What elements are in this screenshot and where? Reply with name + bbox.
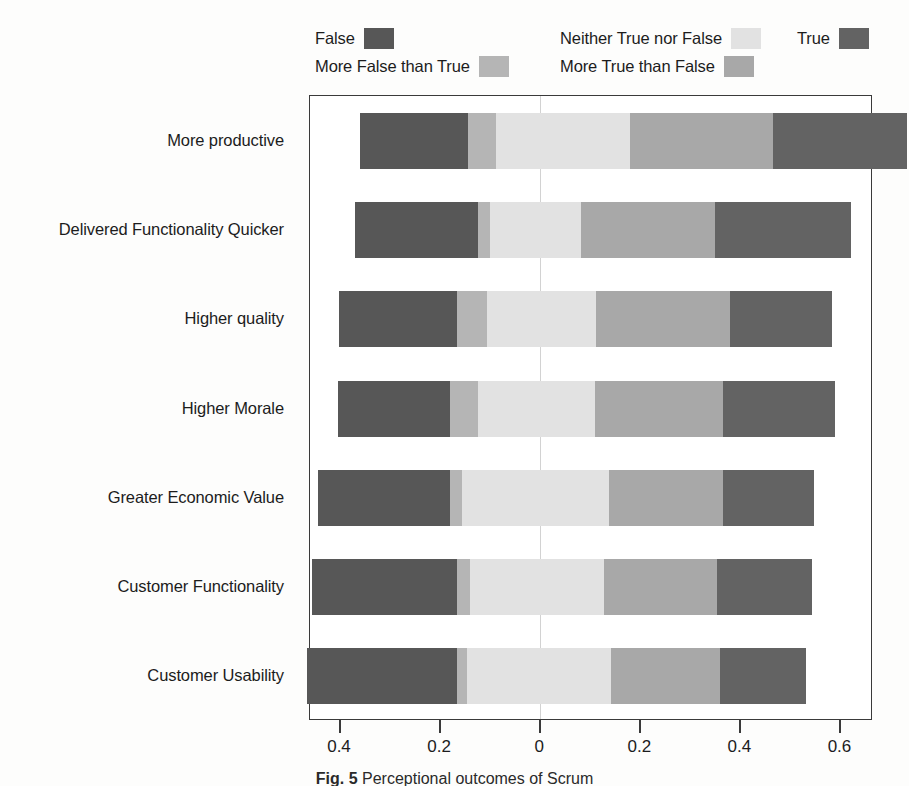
legend-swatch: [364, 28, 394, 49]
bar-segment[interactable]: [338, 381, 450, 437]
bar-segment[interactable]: [720, 648, 806, 704]
bar-row: [310, 291, 871, 347]
bar-segment[interactable]: [490, 202, 581, 258]
legend-item[interactable]: More False than True: [315, 56, 509, 77]
stacked-bar[interactable]: [339, 291, 832, 347]
bar-segment[interactable]: [339, 291, 457, 347]
bar-segment[interactable]: [630, 113, 773, 169]
bar-segment[interactable]: [611, 648, 720, 704]
chart-legend: FalseMore False than TrueNeither True no…: [309, 26, 887, 84]
bar-segment[interactable]: [595, 381, 723, 437]
legend-item[interactable]: True: [797, 28, 869, 49]
legend-item[interactable]: More True than False: [560, 56, 754, 77]
legend-swatch: [479, 56, 509, 77]
bar-segment[interactable]: [596, 291, 730, 347]
legend-item-label: More True than False: [560, 57, 715, 76]
stacked-bar[interactable]: [355, 202, 852, 258]
stacked-bar[interactable]: [338, 381, 835, 437]
x-axis-tick-label: 0.2: [427, 737, 451, 757]
x-axis-tick: [539, 720, 541, 733]
bar-segment[interactable]: [450, 470, 462, 526]
bar-segment[interactable]: [496, 113, 631, 169]
legend-swatch: [839, 28, 869, 49]
bar-row: [310, 202, 871, 258]
bar-segment[interactable]: [467, 648, 612, 704]
legend-swatch: [724, 56, 754, 77]
bar-segment[interactable]: [478, 381, 595, 437]
x-axis-tick-label: 0.6: [828, 737, 852, 757]
bar-segment[interactable]: [478, 202, 490, 258]
bar-segment[interactable]: [604, 559, 718, 615]
bar-segment[interactable]: [730, 291, 832, 347]
bar-row: [310, 648, 871, 704]
bar-row: [310, 559, 871, 615]
bar-segment[interactable]: [581, 202, 715, 258]
legend-swatch: [731, 28, 761, 49]
stacked-bar[interactable]: [307, 648, 806, 704]
bar-segment[interactable]: [457, 648, 467, 704]
legend-item-label: More False than True: [315, 57, 470, 76]
x-axis-tick: [339, 720, 341, 733]
figure-number: Fig. 5: [316, 770, 358, 786]
y-axis-label: Customer Functionality: [117, 577, 284, 596]
stacked-bar[interactable]: [312, 559, 812, 615]
y-axis-label: Greater Economic Value: [108, 487, 284, 506]
stacked-bar[interactable]: [360, 113, 907, 169]
y-axis-label: Delivered Functionality Quicker: [59, 219, 284, 238]
bar-segment[interactable]: [462, 470, 609, 526]
bar-segment[interactable]: [318, 470, 450, 526]
x-axis-tick: [739, 720, 741, 733]
legend-item[interactable]: Neither True nor False: [560, 28, 761, 49]
stacked-bar[interactable]: [318, 470, 814, 526]
bar-segment[interactable]: [723, 381, 835, 437]
legend-item-label: False: [315, 29, 355, 48]
bar-segment[interactable]: [312, 559, 457, 615]
bar-segment[interactable]: [470, 559, 604, 615]
bar-segment[interactable]: [487, 291, 596, 347]
bar-segment[interactable]: [773, 113, 907, 169]
x-axis-tick-label: 0.2: [627, 737, 651, 757]
y-axis-label: Customer Usability: [147, 666, 284, 685]
bar-segment[interactable]: [715, 202, 852, 258]
legend-item-label: True: [797, 29, 830, 48]
bar-segment[interactable]: [723, 470, 814, 526]
bar-row: [310, 381, 871, 437]
caption-text: Perceptional outcomes of Scrum: [362, 770, 593, 786]
likert-chart-figure: FalseMore False than TrueNeither True no…: [0, 0, 909, 786]
y-axis-label: More productive: [167, 130, 284, 149]
x-axis-tick-label: 0.4: [327, 737, 351, 757]
x-axis-tick: [639, 720, 641, 733]
bar-segment[interactable]: [609, 470, 724, 526]
bar-segment[interactable]: [468, 113, 496, 169]
bar-row: [310, 470, 871, 526]
bar-segment[interactable]: [355, 202, 479, 258]
bar-segment[interactable]: [457, 291, 487, 347]
y-axis-labels: More productiveDelivered Functionality Q…: [0, 95, 297, 720]
bar-segment[interactable]: [450, 381, 478, 437]
bar-segment[interactable]: [717, 559, 812, 615]
figure-caption: Fig. 5 Perceptional outcomes of Scrum: [0, 770, 909, 786]
bar-row: [310, 113, 871, 169]
x-axis-tick-label: 0.4: [728, 737, 752, 757]
x-axis-tick: [839, 720, 841, 733]
y-axis-label: Higher quality: [185, 309, 285, 328]
x-axis: 0.40.200.20.40.6: [309, 720, 872, 766]
legend-item[interactable]: False: [315, 28, 394, 49]
bar-segment[interactable]: [457, 559, 471, 615]
bar-segment[interactable]: [307, 648, 457, 704]
plot-panel: [309, 95, 872, 720]
bar-segment[interactable]: [360, 113, 468, 169]
x-axis-tick: [439, 720, 441, 733]
y-axis-label: Higher Morale: [182, 398, 284, 417]
legend-item-label: Neither True nor False: [560, 29, 722, 48]
x-axis-tick-label: 0: [534, 737, 543, 757]
